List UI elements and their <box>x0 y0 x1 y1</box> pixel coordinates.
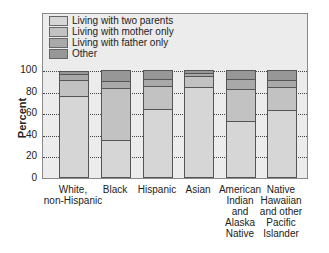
bar-segment <box>184 76 214 87</box>
bar-segment <box>267 70 297 80</box>
legend-item: Other <box>44 48 174 59</box>
bar-segment <box>267 87 297 110</box>
legend-item: Living with two parents <box>44 15 174 26</box>
bar-segment <box>143 109 173 178</box>
bar-segment <box>59 96 89 178</box>
y-tick-label: 40 <box>13 130 37 140</box>
bar-segment <box>59 74 89 79</box>
bar-segment <box>59 71 89 74</box>
bar-segment <box>184 87 214 178</box>
legend-label: Other <box>72 48 97 59</box>
legend: Living with two parentsLiving with mothe… <box>44 15 174 59</box>
y-tick-label: 0 <box>13 173 37 183</box>
bar-segment <box>59 80 89 96</box>
bar-segment <box>101 81 131 89</box>
y-tick-label: 100 <box>13 65 37 75</box>
y-tick-label: 60 <box>13 108 37 118</box>
bar-segment <box>101 88 131 140</box>
bar-segment <box>143 79 173 87</box>
legend-label: Living with mother only <box>72 26 174 37</box>
bar-segment <box>184 70 214 73</box>
bar-1 <box>101 70 131 178</box>
bar-5 <box>267 70 297 178</box>
bar-3 <box>184 70 214 178</box>
bar-segment <box>184 73 214 76</box>
legend-item: Living with father only <box>44 37 174 48</box>
legend-label: Living with two parents <box>72 15 173 26</box>
bar-segment <box>226 79 256 90</box>
legend-swatch-icon <box>49 27 68 37</box>
bar-segment <box>143 86 173 109</box>
x-tick-label: Native Hawaiian and other Pacific Island… <box>251 184 311 239</box>
bar-segment <box>267 80 297 88</box>
bar-segment <box>226 89 256 120</box>
bar-2 <box>143 70 173 178</box>
bar-segment <box>101 70 131 81</box>
bar-segment <box>267 110 297 178</box>
plot-area: Living with two parentsLiving with mothe… <box>42 13 308 179</box>
y-tick-label: 20 <box>13 151 37 161</box>
legend-swatch-icon <box>49 16 68 26</box>
bar-segment <box>226 121 256 178</box>
bar-4 <box>226 70 256 178</box>
legend-swatch-icon <box>49 49 68 59</box>
legend-item: Living with mother only <box>44 26 174 37</box>
bar-segment <box>143 70 173 79</box>
bar-segment <box>101 140 131 178</box>
y-tick-label: 80 <box>13 87 37 97</box>
bar-segment <box>226 70 256 79</box>
legend-label: Living with father only <box>72 37 168 48</box>
legend-swatch-icon <box>49 38 68 48</box>
bar-0 <box>59 71 89 178</box>
